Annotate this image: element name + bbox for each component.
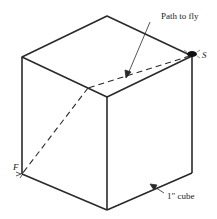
label-cube: 1" cube: [167, 191, 194, 201]
fly-path-top-segment: [88, 56, 190, 88]
label-finish: F: [12, 162, 19, 172]
label-start: S: [202, 50, 207, 60]
cube-diagram: Path to fly S F 1" cube: [0, 0, 217, 219]
path-pointer-arrowhead: [125, 70, 131, 78]
fly-path-side-segment: [22, 88, 88, 174]
label-path-to-fly: Path to fly: [161, 11, 199, 21]
path-pointer-line: [128, 22, 150, 74]
cube-top-face: [22, 16, 192, 97]
cube-edge-bottom-left: [22, 174, 107, 210]
